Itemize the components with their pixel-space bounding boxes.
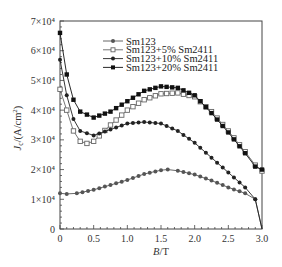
x-axis-ticks: 00.51.01.52.02.53.0 (58, 225, 269, 244)
x-tick-label: 1.5 (155, 233, 168, 244)
x-tick-label: 3.0 (256, 233, 269, 244)
jc-vs-field-chart: 00.51.01.52.02.53.0 01×10⁴2×10⁴3×10⁴4×10… (0, 0, 282, 267)
x-tick-label: 0 (58, 233, 63, 244)
series-0 (58, 168, 262, 229)
x-tick-label: 1.0 (121, 233, 134, 244)
y-tick-label: 0 (50, 224, 55, 235)
x-tick-label: 0.5 (87, 233, 100, 244)
x-axis-title: B/T (153, 246, 169, 257)
y-tick-label: 5×10⁴ (31, 75, 56, 86)
y-tick-label: 3×10⁴ (31, 134, 56, 145)
legend-label: Sm123+20% Sm2411 (126, 62, 218, 73)
x-tick-label: 2.5 (222, 233, 235, 244)
series-1 (58, 87, 264, 173)
y-tick-label: 7×10⁴ (31, 16, 56, 27)
y-tick-label: 1×10⁴ (31, 194, 56, 205)
legend: Sm123Sm123+5% Sm2411Sm123+10% Sm2411Sm12… (103, 36, 218, 73)
y-tick-label: 4×10⁴ (31, 105, 56, 116)
y-tick-label: 2×10⁴ (31, 164, 56, 175)
x-tick-label: 2.0 (188, 233, 201, 244)
legend-item: Sm123+20% Sm2411 (103, 62, 218, 73)
y-tick-label: 6×10⁴ (31, 45, 56, 56)
y-axis-ticks: 01×10⁴2×10⁴3×10⁴4×10⁴5×10⁴6×10⁴7×10⁴ (31, 16, 64, 235)
y-axis-title: Jc/(A/cm2) (11, 105, 25, 150)
